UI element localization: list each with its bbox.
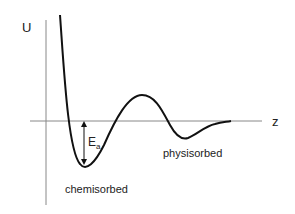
activation-energy-label: Ea	[88, 135, 101, 151]
potential-energy-diagram: U z Ea chemisorbed physisorbed	[0, 0, 295, 214]
x-axis-label: z	[272, 114, 279, 129]
y-axis-label: U	[22, 20, 31, 35]
physisorbed-label: physisorbed	[163, 147, 222, 159]
chemisorbed-label: chemisorbed	[65, 183, 128, 195]
potential-curve	[60, 15, 231, 167]
